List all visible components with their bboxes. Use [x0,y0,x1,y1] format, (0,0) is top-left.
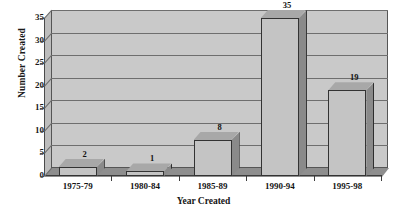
bar-data-label: 8 [201,122,239,132]
gridline [51,10,388,11]
y-axis-tick-mark [40,18,44,19]
bar [59,159,104,176]
bar-data-label: 35 [268,0,306,10]
x-axis-tick-label: 1990-94 [246,181,313,191]
bar [126,163,171,176]
x-axis-tick-label: 1995-98 [314,181,381,191]
y-axis-tick-mark [40,176,44,177]
x-axis-tick-label: 1980-84 [111,181,178,191]
bar [261,10,306,176]
y-axis-tick-mark [40,63,44,64]
y-axis-tick-mark [40,86,44,87]
gridline [51,33,388,34]
y-axis-tick-mark [40,41,44,42]
bar-top-face [194,132,239,140]
y-axis-tick-mark [40,131,44,132]
y-axis-tick-mark [40,108,44,109]
gridline [51,55,388,56]
bar-data-label: 2 [66,149,104,159]
bar-front-face [261,18,299,176]
bar-side-face [299,10,307,176]
x-axis-title: Year Created [0,196,407,206]
x-axis-tick-label: 1985-89 [179,181,246,191]
bar [194,132,239,176]
bar-data-label: 19 [335,72,373,82]
bar-front-face [194,140,232,176]
bar-data-label: 1 [133,153,171,163]
y-axis-tick-mark [40,153,44,154]
y-axis-title: Number Created [17,17,27,109]
bar-front-face [59,167,97,176]
bar-top-face [261,10,306,18]
bar-front-face [328,90,366,176]
bar-top-face [59,159,104,167]
bar [328,82,373,176]
x-axis-tick-mark [381,176,382,181]
bar-top-face [328,82,373,90]
x-axis-tick-label: 1975-79 [44,181,111,191]
bar-top-face [126,163,171,171]
bar-chart: 05101520253035 Number Created 1975-79198… [0,0,407,213]
bar-side-face [366,82,374,176]
bar-front-face [126,171,164,176]
